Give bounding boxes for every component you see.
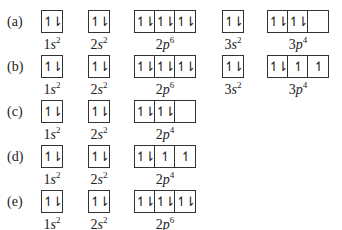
orbital-2s: ↿⇂2s2	[88, 190, 110, 213]
paired-electrons-icon: ↿⇂	[155, 191, 175, 212]
configuration-row: (b)↿⇂1s2↿⇂2s2↿⇂↿⇂↿⇂2p6↿⇂3s2↿⇂↿↿3p4	[0, 50, 342, 95]
orbital-1s: ↿⇂1s2	[41, 100, 63, 123]
configuration-row: (d)↿⇂1s2↿⇂2s2↿⇂↿↿2p4	[0, 140, 342, 185]
row-label: (a)	[7, 13, 23, 31]
orbital-1s: ↿⇂1s2	[41, 145, 63, 168]
paired-electrons-icon: ↿⇂	[89, 56, 109, 77]
orbital-boxes: ↿⇂↿⇂	[267, 10, 329, 33]
empty-orbital-box	[175, 101, 195, 122]
single-electron-icon: ↿	[308, 56, 328, 77]
orbital-2p: ↿⇂↿⇂↿⇂2p6	[134, 10, 196, 33]
paired-electrons-icon: ↿⇂	[155, 11, 175, 32]
paired-electrons-icon: ↿⇂	[268, 11, 288, 32]
orbital-1s: ↿⇂1s2	[41, 55, 63, 78]
orbital-boxes: ↿⇂	[88, 55, 110, 78]
orbital-3s: ↿⇂3s2	[222, 55, 244, 78]
orbital-2p: ↿⇂↿↿2p4	[134, 145, 196, 168]
paired-electrons-icon: ↿⇂	[42, 11, 62, 32]
paired-electrons-icon: ↿⇂	[42, 101, 62, 122]
orbital-boxes: ↿⇂	[41, 100, 63, 123]
orbital-2p: ↿⇂↿⇂↿⇂2p6	[134, 190, 196, 213]
orbital-2p: ↿⇂↿⇂2p4	[134, 100, 196, 123]
orbital-1s: ↿⇂1s2	[41, 10, 63, 33]
orbital-label: 2p6	[134, 215, 196, 230]
paired-electrons-icon: ↿⇂	[175, 191, 195, 212]
configuration-row: (c)↿⇂1s2↿⇂2s2↿⇂↿⇂2p4	[0, 95, 342, 140]
paired-electrons-icon: ↿⇂	[89, 11, 109, 32]
orbital-boxes: ↿⇂↿↿	[134, 145, 196, 168]
orbital-boxes: ↿⇂	[41, 55, 63, 78]
row-label: (b)	[7, 58, 23, 76]
paired-electrons-icon: ↿⇂	[223, 11, 243, 32]
orbital-3p: ↿⇂↿⇂3p4	[267, 10, 329, 33]
paired-electrons-icon: ↿⇂	[135, 191, 155, 212]
paired-electrons-icon: ↿⇂	[175, 56, 195, 77]
orbital-3p: ↿⇂↿↿3p4	[267, 55, 329, 78]
orbital-boxes: ↿⇂	[41, 10, 63, 33]
orbital-2s: ↿⇂2s2	[88, 100, 110, 123]
row-label: (e)	[7, 193, 23, 211]
paired-electrons-icon: ↿⇂	[135, 101, 155, 122]
paired-electrons-icon: ↿⇂	[135, 11, 155, 32]
orbital-boxes: ↿⇂	[88, 145, 110, 168]
paired-electrons-icon: ↿⇂	[42, 146, 62, 167]
paired-electrons-icon: ↿⇂	[42, 56, 62, 77]
orbital-label: 1s2	[41, 215, 63, 230]
orbital-boxes: ↿⇂	[88, 100, 110, 123]
orbital-boxes: ↿⇂	[88, 190, 110, 213]
paired-electrons-icon: ↿⇂	[175, 11, 195, 32]
paired-electrons-icon: ↿⇂	[89, 191, 109, 212]
orbital-boxes: ↿⇂	[41, 145, 63, 168]
orbital-1s: ↿⇂1s2	[41, 190, 63, 213]
orbital-boxes: ↿⇂	[222, 10, 244, 33]
row-label: (d)	[7, 148, 23, 166]
orbital-boxes: ↿⇂↿⇂↿⇂	[134, 10, 196, 33]
orbital-boxes: ↿⇂↿⇂↿⇂	[134, 55, 196, 78]
paired-electrons-icon: ↿⇂	[155, 101, 175, 122]
single-electron-icon: ↿	[155, 146, 175, 167]
orbital-boxes: ↿⇂↿⇂↿⇂	[134, 190, 196, 213]
orbital-2s: ↿⇂2s2	[88, 55, 110, 78]
empty-orbital-box	[308, 11, 328, 32]
orbital-2s: ↿⇂2s2	[88, 10, 110, 33]
orbital-label: 2s2	[88, 215, 110, 230]
row-label: (c)	[7, 103, 23, 121]
orbital-boxes: ↿⇂↿⇂	[134, 100, 196, 123]
paired-electrons-icon: ↿⇂	[155, 56, 175, 77]
orbital-boxes: ↿⇂↿↿	[267, 55, 329, 78]
single-electron-icon: ↿	[175, 146, 195, 167]
configuration-row: (a)↿⇂1s2↿⇂2s2↿⇂↿⇂↿⇂2p6↿⇂3s2↿⇂↿⇂3p4	[0, 5, 342, 50]
orbital-boxes: ↿⇂	[41, 190, 63, 213]
paired-electrons-icon: ↿⇂	[135, 146, 155, 167]
paired-electrons-icon: ↿⇂	[223, 56, 243, 77]
paired-electrons-icon: ↿⇂	[268, 56, 288, 77]
configuration-row: (e)↿⇂1s2↿⇂2s2↿⇂↿⇂↿⇂2p6	[0, 185, 342, 230]
orbital-2s: ↿⇂2s2	[88, 145, 110, 168]
paired-electrons-icon: ↿⇂	[89, 146, 109, 167]
orbital-2p: ↿⇂↿⇂↿⇂2p6	[134, 55, 196, 78]
orbital-3s: ↿⇂3s2	[222, 10, 244, 33]
paired-electrons-icon: ↿⇂	[42, 191, 62, 212]
paired-electrons-icon: ↿⇂	[288, 11, 308, 32]
paired-electrons-icon: ↿⇂	[89, 101, 109, 122]
single-electron-icon: ↿	[288, 56, 308, 77]
orbital-boxes: ↿⇂	[88, 10, 110, 33]
paired-electrons-icon: ↿⇂	[135, 56, 155, 77]
orbital-boxes: ↿⇂	[222, 55, 244, 78]
